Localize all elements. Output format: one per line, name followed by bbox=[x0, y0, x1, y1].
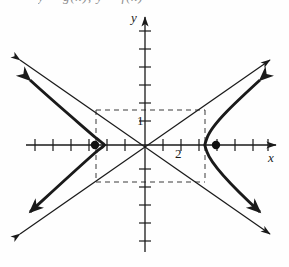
plot-canvas bbox=[0, 0, 289, 267]
x-axis-label: x bbox=[268, 150, 274, 166]
tick-label-two: 2 bbox=[175, 146, 182, 162]
tick-label-one: 1 bbox=[137, 113, 144, 129]
focus-right-dot bbox=[212, 141, 220, 149]
axes-group bbox=[26, 17, 276, 252]
focus-left-dot bbox=[91, 141, 99, 149]
hyperbola-figure: y = g(x), y = f(x) bbox=[0, 0, 289, 267]
y-axis-label: y bbox=[131, 10, 137, 26]
